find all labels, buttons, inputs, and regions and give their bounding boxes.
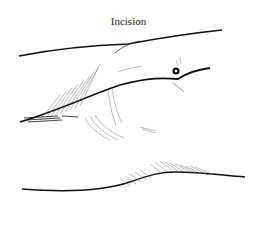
hatching: [40, 58, 214, 186]
incision-line: [20, 68, 210, 122]
upper-contour: [19, 30, 222, 56]
limb-illustration: [0, 0, 257, 226]
lower-contour: [22, 172, 245, 191]
